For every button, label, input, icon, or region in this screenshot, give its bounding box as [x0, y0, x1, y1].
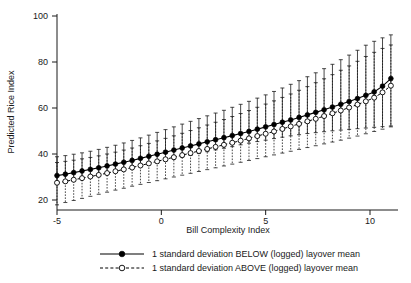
data-point-open-circle — [330, 111, 335, 116]
data-point-open-circle — [355, 102, 360, 107]
data-point-open-circle — [155, 159, 160, 164]
y-tick-label: 40 — [38, 149, 48, 159]
data-point-open-circle — [146, 161, 151, 166]
data-point-filled-circle — [222, 135, 227, 140]
x-tick-label: 0 — [159, 216, 164, 226]
data-point-filled-circle — [138, 156, 143, 161]
data-point-open-circle — [171, 155, 176, 160]
x-tick-label: 10 — [365, 216, 375, 226]
data-point-filled-circle — [238, 131, 243, 136]
data-point-open-circle — [105, 171, 110, 176]
data-point-open-circle — [88, 174, 93, 179]
y-tick-label: 80 — [38, 57, 48, 67]
chart-figure: 20406080100 -50510 Bill Complexity Index… — [0, 0, 411, 283]
predicted-rice-index-chart: 20406080100 -50510 Bill Complexity Index… — [0, 0, 411, 283]
data-point-filled-circle — [313, 110, 318, 115]
data-point-open-circle — [196, 149, 201, 154]
data-point-open-circle — [313, 116, 318, 121]
y-tick-label: 60 — [38, 103, 48, 113]
data-point-filled-circle — [355, 96, 360, 101]
data-point-filled-circle — [280, 120, 285, 125]
data-point-open-circle — [63, 179, 68, 184]
data-point-filled-circle — [80, 169, 85, 174]
data-point-filled-circle — [171, 148, 176, 153]
data-point-filled-circle — [146, 154, 151, 159]
x-tick-label: -5 — [53, 216, 61, 226]
data-point-filled-circle — [338, 102, 343, 107]
data-point-open-circle — [71, 177, 76, 182]
data-point-open-circle — [347, 105, 352, 110]
data-point-filled-circle — [205, 139, 210, 144]
data-point-open-circle — [213, 144, 218, 149]
legend-marker-open-circle-icon — [119, 265, 125, 271]
x-axis-title: Bill Complexity Index — [186, 225, 270, 235]
data-point-open-circle — [55, 180, 60, 185]
data-point-open-circle — [388, 83, 393, 88]
data-point-open-circle — [322, 114, 327, 119]
data-point-open-circle — [272, 129, 277, 134]
data-point-open-circle — [230, 140, 235, 145]
data-point-open-circle — [338, 108, 343, 113]
data-point-filled-circle — [113, 162, 118, 167]
data-point-filled-circle — [247, 129, 252, 134]
data-point-filled-circle — [96, 165, 101, 170]
data-point-filled-circle — [71, 170, 76, 175]
y-tick-label: 100 — [33, 11, 48, 21]
data-point-open-circle — [288, 124, 293, 129]
data-point-open-circle — [297, 121, 302, 126]
data-point-filled-circle — [188, 144, 193, 149]
y-tick-label: 20 — [38, 195, 48, 205]
data-point-filled-circle — [121, 160, 126, 165]
data-point-open-circle — [138, 163, 143, 168]
data-point-filled-circle — [263, 124, 268, 129]
data-point-open-circle — [205, 146, 210, 151]
data-point-filled-circle — [347, 99, 352, 104]
legend-marker-filled-circle-icon — [119, 251, 125, 257]
legend-entry-below: 1 standard deviation BELOW (logged) layo… — [100, 249, 360, 259]
data-point-open-circle — [130, 165, 135, 170]
data-point-filled-circle — [330, 105, 335, 110]
y-axis-ticks: 20406080100 — [33, 11, 57, 205]
data-point-filled-circle — [380, 84, 385, 89]
data-point-open-circle — [305, 119, 310, 124]
data-point-filled-circle — [105, 164, 110, 169]
data-point-filled-circle — [322, 107, 327, 112]
data-point-filled-circle — [180, 146, 185, 151]
data-point-open-circle — [113, 169, 118, 174]
data-point-open-circle — [188, 151, 193, 156]
data-point-filled-circle — [297, 115, 302, 120]
data-point-open-circle — [372, 95, 377, 100]
data-point-filled-circle — [372, 90, 377, 95]
data-point-filled-circle — [230, 133, 235, 138]
data-point-filled-circle — [272, 122, 277, 127]
data-point-open-circle — [380, 90, 385, 95]
data-point-open-circle — [80, 176, 85, 181]
data-point-open-circle — [221, 142, 226, 147]
data-point-filled-circle — [88, 167, 93, 172]
data-point-filled-circle — [55, 173, 60, 178]
data-point-filled-circle — [388, 76, 393, 81]
data-point-open-circle — [96, 172, 101, 177]
legend-entry-above: 1 standard deviation ABOVE (logged) layo… — [100, 263, 358, 273]
chart-legend: 1 standard deviation BELOW (logged) layo… — [100, 249, 360, 273]
legend-label-above: 1 standard deviation ABOVE (logged) layo… — [152, 263, 358, 273]
data-point-open-circle — [163, 157, 168, 162]
legend-label-below: 1 standard deviation BELOW (logged) layo… — [152, 249, 360, 259]
data-point-open-circle — [238, 138, 243, 143]
data-point-filled-circle — [255, 127, 260, 132]
x-axis-ticks: -50510 — [53, 210, 375, 226]
data-point-filled-circle — [213, 137, 218, 142]
data-point-open-circle — [363, 99, 368, 104]
data-point-filled-circle — [305, 113, 310, 118]
data-point-open-circle — [255, 134, 260, 139]
data-point-filled-circle — [363, 93, 368, 98]
y-axis-title: Predicted Rice Index — [6, 70, 16, 154]
data-point-open-circle — [121, 167, 126, 172]
data-point-open-circle — [246, 136, 251, 141]
data-point-filled-circle — [288, 118, 293, 123]
data-point-filled-circle — [63, 172, 68, 177]
data-point-open-circle — [280, 126, 285, 131]
data-point-open-circle — [263, 131, 268, 136]
data-point-open-circle — [180, 153, 185, 158]
data-point-filled-circle — [196, 141, 201, 146]
